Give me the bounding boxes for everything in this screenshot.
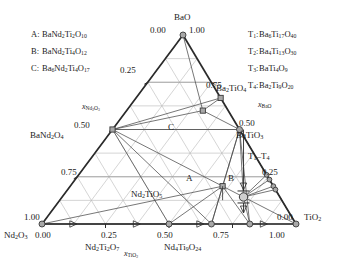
left-axis-tick-0.50: 0.50 — [74, 121, 90, 130]
marker-Nd2TiO5 — [166, 221, 172, 227]
legend-key-T4: T4: — [248, 81, 259, 91]
compound-label-T1-T4: T1–T4 — [248, 152, 270, 161]
marker-Nd4Ti9O24 — [247, 221, 253, 227]
legend-key-T1: T1: — [248, 30, 259, 40]
marker-C — [200, 108, 205, 113]
bottom-axis-tick-0.75: 0.75 — [213, 231, 229, 240]
marker-B-solid-solution — [239, 193, 247, 201]
legend-key-T3: T3: — [248, 64, 259, 74]
legend-key-C: C: — [31, 64, 42, 73]
ternary-diagram-figure: A:BaNd2Ti2O10 B:BaNd2Ti4O12 C:Ba6Nd2Ti4O… — [0, 0, 340, 268]
marker-BaO — [180, 32, 186, 38]
right-axis-tick-0.25: 0.25 — [262, 168, 278, 177]
bottom-axis-tick-0.25: 0.25 — [101, 231, 117, 240]
compound-label-Nd4Ti9O24: Nd4Ti9O24 — [164, 243, 201, 252]
corner-label-Nd2O3: Nd2O3 — [4, 231, 28, 240]
left-axis-tick-0.25: 0.25 — [120, 66, 136, 75]
marker-T4 — [273, 187, 278, 192]
corner-tick-Nd2O3-bottom: 0.00 — [35, 231, 51, 240]
compound-label-Ba2TiO4: Ba2TiO4 — [216, 84, 246, 93]
legend-key-T2: T2: — [248, 47, 259, 57]
point-label-B: B — [228, 174, 234, 183]
legend-key-A: A: — [31, 30, 42, 39]
right-axis-tick-0.50: 0.50 — [239, 119, 255, 128]
compound-label-BaNd2O4: BaNd2O4 — [30, 131, 64, 140]
legend-item-A: A:BaNd2Ti2O10 — [31, 30, 87, 40]
corner-tick-Nd2O3-left: 1.00 — [24, 213, 40, 222]
legend-formula-C: Ba6Nd2Ti4O17 — [42, 63, 90, 73]
marker-Ba2TiO4 — [218, 95, 223, 100]
legend-formula-T2: Ba4Ti13O30 — [259, 46, 296, 56]
compound-label-Nd2TiO5: Nd2TiO5 — [131, 190, 162, 199]
legend-item-T4: T4:Ba2Ti9O20 — [248, 81, 293, 91]
compound-label-Nd2Ti2O7: Nd2Ti2O7 — [85, 243, 119, 252]
legend-item-C: C:Ba6Nd2Ti4O17 — [31, 64, 90, 74]
bottom-axis-tick-0.50: 0.50 — [157, 231, 173, 240]
marker-T2 — [267, 177, 272, 182]
corner-label-TiO2: TiO2 — [304, 213, 321, 222]
corner-label-BaO: BaO — [174, 13, 191, 22]
corner-tick-TiO2-bottom: 1.00 — [269, 231, 285, 240]
corner-tick-TiO2-right: 0.00 — [277, 213, 293, 222]
point-label-A: A — [186, 174, 193, 183]
legend-item-T2: T2:Ba4Ti13O30 — [248, 47, 296, 57]
corner-tick-BaO-left: 0.00 — [150, 26, 166, 35]
compound-label-BaTiO3: BaTiO3 — [236, 131, 263, 140]
legend-key-B: B: — [31, 47, 42, 56]
legend-item-T3: T3:BaTi4O9 — [248, 64, 288, 74]
marker-BaNd2O4 — [110, 127, 115, 132]
legend-item-T1: T1:Ba6Ti17O40 — [248, 30, 296, 40]
legend-formula-B: BaNd2Ti4O12 — [42, 46, 87, 56]
legend-formula-T3: BaTi4O9 — [259, 63, 288, 73]
left-axis-tick-0.75: 0.75 — [61, 168, 77, 177]
legend-formula-A: BaNd2Ti2O10 — [42, 29, 87, 39]
point-label-C: C — [168, 123, 174, 132]
legend-formula-T1: Ba6Ti17O40 — [259, 29, 296, 39]
marker-TiO2 — [293, 221, 299, 227]
corner-tick-BaO-right: 1.00 — [189, 26, 205, 35]
legend-formula-T4: Ba2Ti9O20 — [259, 80, 293, 90]
marker-Nd2Ti2O7 — [208, 221, 214, 227]
legend-item-B: B:BaNd2Ti4O12 — [31, 47, 87, 57]
right-axis-title: xBaO — [258, 101, 272, 109]
left-axis-title: xNd2O3 — [82, 103, 100, 112]
bottom-axis-title: xTiO2 — [124, 250, 138, 259]
